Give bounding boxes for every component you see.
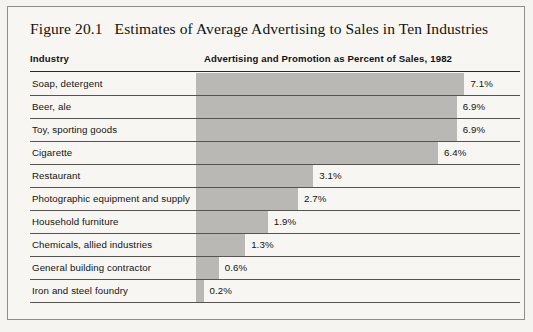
chart-row: General building contractor0.6% — [30, 256, 520, 279]
figure-root: Figure 20.1Estimates of Average Advertis… — [0, 0, 533, 332]
table-rule — [30, 302, 520, 303]
chart-row: Iron and steel foundry0.2% — [30, 279, 520, 302]
bar-category-label: General building contractor — [32, 262, 151, 273]
bar-value-label: 2.7% — [304, 193, 326, 204]
column-header-industry: Industry — [30, 53, 69, 64]
figure-number: Figure 20.1 — [30, 20, 103, 37]
bar-value-label: 1.3% — [251, 239, 273, 250]
bar-value-label: 6.9% — [463, 124, 485, 135]
chart-row: Restaurant3.1% — [30, 164, 520, 187]
chart-row: Household furniture1.9% — [30, 210, 520, 233]
bar-value-label: 3.1% — [319, 170, 341, 181]
bar-value-label: 7.1% — [470, 78, 492, 89]
bar-value-label: 1.9% — [274, 216, 296, 227]
bar — [196, 188, 298, 210]
bar-value-label: 6.9% — [463, 101, 485, 112]
chart-row: Photographic equipment and supply2.7% — [30, 187, 520, 210]
bar-category-label: Toy, sporting goods — [32, 124, 117, 135]
chart-row: Chemicals, allied industries1.3% — [30, 233, 520, 256]
figure-title-text: Estimates of Average Advertising to Sale… — [115, 20, 489, 37]
bar — [196, 234, 245, 256]
bar-category-label: Restaurant — [32, 170, 80, 181]
column-header-metric: Advertising and Promotion as Percent of … — [204, 53, 452, 64]
chart-row: Beer, ale6.9% — [30, 95, 520, 118]
chart-table: Soap, detergent7.1%Beer, ale6.9%Toy, spo… — [30, 71, 520, 315]
bar — [196, 96, 457, 118]
chart-row: Soap, detergent7.1% — [30, 72, 520, 95]
bar-category-label: Soap, detergent — [32, 78, 102, 89]
bar-value-label: 6.4% — [444, 147, 466, 158]
bar-value-label: 0.2% — [210, 285, 232, 296]
bar-category-label: Chemicals, allied industries — [32, 239, 152, 250]
chart-row: Cigarette6.4% — [30, 141, 520, 164]
bar — [196, 119, 457, 141]
bar-category-label: Photographic equipment and supply — [32, 193, 190, 204]
bar-category-label: Cigarette — [32, 147, 72, 158]
bar — [196, 280, 204, 302]
bar — [196, 73, 464, 95]
bar-value-label: 0.6% — [225, 262, 247, 273]
figure-title: Figure 20.1Estimates of Average Advertis… — [30, 20, 510, 42]
chart-row: Toy, sporting goods6.9% — [30, 118, 520, 141]
bar-category-label: Household furniture — [32, 216, 118, 227]
bar — [196, 257, 219, 279]
bar — [196, 211, 268, 233]
bar-category-label: Iron and steel foundry — [32, 285, 128, 296]
bar — [196, 142, 438, 164]
bar-category-label: Beer, ale — [32, 101, 71, 112]
bar — [196, 165, 313, 187]
figure-frame: Figure 20.1Estimates of Average Advertis… — [7, 6, 525, 320]
